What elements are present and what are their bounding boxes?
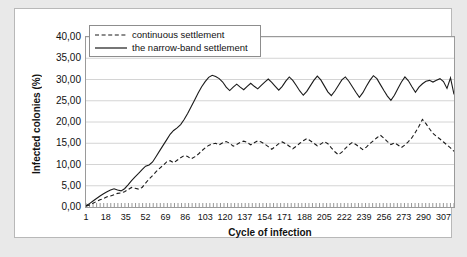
x-axis-tick-label: 154 — [257, 212, 272, 223]
plot-area — [85, 36, 455, 208]
chart-legend: continuous settlement the narrow-band se… — [89, 25, 261, 57]
x-axis-tick-label: 18 — [101, 212, 111, 223]
plot-svg — [86, 37, 454, 207]
x-axis-tick-label: 273 — [396, 212, 411, 223]
legend-swatch-solid — [94, 43, 128, 53]
y-axis-tick-label: 20,00 — [33, 117, 81, 127]
x-axis-tick-label: 205 — [317, 212, 332, 223]
series-line-continuous — [86, 119, 454, 206]
x-axis-tick-label: 188 — [297, 212, 312, 223]
y-axis-tick-label: 25,00 — [33, 96, 81, 106]
x-axis-tick-label: 35 — [121, 212, 131, 223]
y-axis-tick-label: 5,00 — [33, 181, 81, 191]
legend-label-continuous: continuous settlement — [132, 29, 224, 40]
gridlines — [86, 37, 454, 186]
x-axis-tick-label: 256 — [376, 212, 391, 223]
y-axis-tick-labels: 0,005,0010,0015,0020,0025,0030,0035,0040… — [29, 9, 81, 181]
x-axis-tick-label: 69 — [160, 212, 170, 223]
x-axis-tick-labels: 1183552698610312013715417118820522223925… — [85, 212, 455, 224]
y-axis-tick-label: 40,00 — [33, 32, 81, 42]
x-axis-tick-label: 1 — [83, 212, 88, 223]
x-axis-tick-label: 86 — [180, 212, 190, 223]
legend-item-narrow-band: the narrow-band settlement — [94, 41, 256, 54]
x-axis-tick-label: 120 — [218, 212, 233, 223]
x-axis-tick-label: 52 — [141, 212, 151, 223]
x-axis-title: Cycle of infection — [85, 227, 455, 238]
x-axis-tick-label: 239 — [357, 212, 372, 223]
x-axis-tick-label: 137 — [237, 212, 252, 223]
chart-panel: Infected colonies (%) 0,005,0010,0015,00… — [14, 8, 452, 238]
x-axis-tick-label: 307 — [436, 212, 451, 223]
x-axis-tick-label: 103 — [198, 212, 213, 223]
x-axis-tick-label: 290 — [416, 212, 431, 223]
legend-item-continuous: continuous settlement — [94, 28, 256, 41]
y-axis-tick-label: 0,00 — [33, 202, 81, 212]
legend-swatch-dashed — [94, 30, 128, 40]
legend-label-narrow-band: the narrow-band settlement — [132, 42, 248, 53]
y-axis-tick-label: 10,00 — [33, 160, 81, 170]
y-axis-tick-label: 30,00 — [33, 75, 81, 85]
y-axis-tick-label: 15,00 — [33, 138, 81, 148]
y-axis-tick-label: 35,00 — [33, 53, 81, 63]
x-axis-tick-label: 222 — [337, 212, 352, 223]
x-axis-minor-ticks — [86, 203, 454, 207]
x-axis-tick-label: 171 — [277, 212, 292, 223]
chart-screenshot: Infected colonies (%) 0,005,0010,0015,00… — [0, 0, 467, 257]
